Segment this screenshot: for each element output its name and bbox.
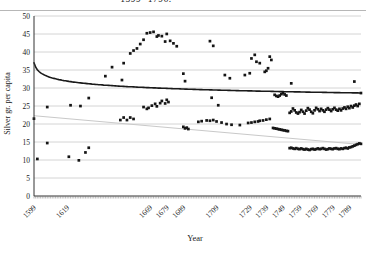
linear-trend: [34, 116, 361, 145]
y-tick-label: 45: [23, 30, 31, 39]
y-tick-label: 5: [26, 174, 30, 183]
x-tick-label: 1709: [204, 203, 221, 220]
y-tick-label: 40: [23, 48, 31, 57]
x-tick-label: 1779: [320, 203, 337, 220]
plot-area: 0510152025303540455015991619166916791689…: [0, 0, 366, 255]
y-tick-label: 10: [23, 156, 31, 165]
y-tick-label: 30: [23, 84, 31, 93]
gridlines: [34, 16, 361, 178]
y-tick-label: 15: [23, 138, 31, 147]
y-axis-title: Silver gr. per capita: [3, 34, 12, 174]
x-tick-labels: 1599161916691679168917091729173917491759…: [21, 203, 354, 220]
x-tick-label: 1669: [137, 203, 154, 220]
y-tick-label: 50: [23, 12, 31, 21]
x-tick-label: 1599: [21, 203, 38, 220]
power-trend: [34, 63, 361, 93]
x-tick-label: 1789: [336, 203, 353, 220]
y-tick-label: 0: [26, 192, 30, 201]
chart-figure: 1599 -1796. 0510152025303540455015991619…: [0, 0, 366, 255]
x-tick-label: 1619: [54, 203, 71, 220]
y-tick-label: 20: [23, 120, 31, 129]
y-tick-labels: 05101520253035404550: [23, 12, 31, 201]
x-tick-label: 1729: [237, 203, 254, 220]
y-tick-label: 35: [23, 66, 31, 75]
x-tick-label: 1689: [170, 203, 187, 220]
x-tick-label: 1749: [270, 203, 287, 220]
y-tick-label: 25: [23, 102, 31, 111]
x-tick-label: 1769: [303, 203, 320, 220]
x-tick-label: 1739: [253, 203, 270, 220]
x-axis-title: Year: [155, 233, 235, 243]
x-tick-label: 1679: [154, 203, 171, 220]
x-tick-label: 1759: [287, 203, 304, 220]
